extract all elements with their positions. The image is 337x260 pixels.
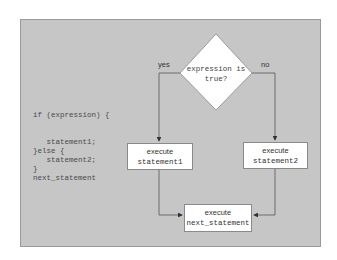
statement2-connector: [254, 169, 275, 215]
statement1-connector: [159, 170, 182, 215]
no-label: no: [261, 60, 269, 69]
decision-line1: expression is: [180, 64, 252, 74]
box-code: next_statement: [186, 218, 249, 228]
flow-connectors: [0, 0, 337, 260]
execute-statement2-box: execute statement2: [243, 142, 308, 169]
box-code: statement2: [253, 156, 298, 166]
execute-statement1-box: execute statement1: [127, 143, 193, 170]
yes-label: yes: [158, 60, 170, 69]
box-code: statement1: [137, 157, 182, 167]
decision-line2: true?: [180, 74, 252, 84]
yes-connector: [159, 73, 180, 141]
box-label: execute: [262, 146, 288, 156]
no-connector: [252, 73, 275, 140]
box-label: execute: [147, 147, 173, 157]
execute-next-statement-box: execute next_statement: [184, 204, 252, 232]
box-label: execute: [205, 208, 231, 218]
decision-text: expression is true?: [180, 64, 252, 84]
